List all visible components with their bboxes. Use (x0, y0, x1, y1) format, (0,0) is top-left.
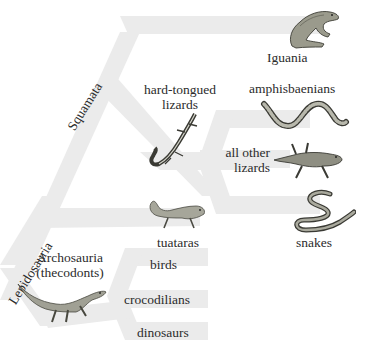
clade-label-archosauria-line2: (thecodonts) (30, 265, 110, 280)
clade-label-archosauria-line1: Archosauria (30, 250, 110, 265)
cladogram-figure: Lepidosauria Squamata Iguania hard-tongu… (0, 0, 373, 341)
gecko-lizard-illustration (272, 140, 344, 182)
tuatara-illustration (146, 198, 208, 232)
amphisbaenian-illustration (260, 98, 350, 132)
striped-lizard-illustration (145, 110, 205, 180)
taxon-label-birds: birds (150, 257, 177, 272)
thecodont-illustration (16, 280, 108, 324)
taxon-label-amphisbaenians: amphisbaenians (249, 81, 335, 96)
clade-label-archosauria: Archosauria (thecodonts) (30, 250, 110, 280)
taxon-label-iguania: Iguania (267, 50, 307, 65)
taxon-label-all-other-lizards: all other lizards (214, 145, 270, 175)
taxon-label-dinosaurs: dinosaurs (137, 325, 189, 340)
taxon-label-all-other-line1: all other (214, 145, 270, 160)
taxon-label-tuataras: tuataras (157, 235, 199, 250)
taxon-label-hard-tongued-line1: hard-tongued (131, 82, 229, 97)
taxon-label-snakes: snakes (296, 235, 332, 250)
taxon-label-all-other-line2: lizards (214, 160, 270, 175)
iguana-illustration (284, 6, 342, 50)
taxon-label-hard-tongued: hard-tongued lizards (131, 82, 229, 112)
snake-illustration (290, 188, 356, 234)
taxon-label-crocodilians: crocodilians (124, 292, 190, 307)
